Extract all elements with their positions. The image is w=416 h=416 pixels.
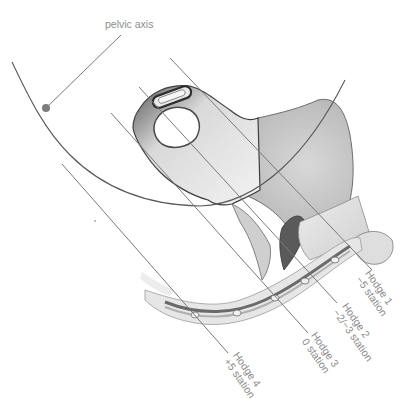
pelvic-axis-dot <box>42 104 50 112</box>
obturator-foramen <box>154 107 199 147</box>
ischium <box>232 204 271 280</box>
pelvic-axis-label: pelvic axis <box>105 18 153 30</box>
pelvis-diagram <box>0 0 416 416</box>
pelvic-axis-leader <box>46 35 121 108</box>
